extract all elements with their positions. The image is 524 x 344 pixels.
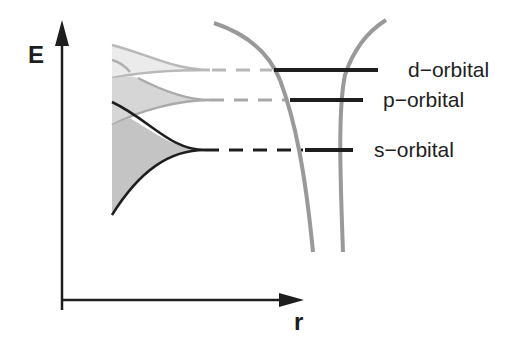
potential-well [214,20,386,252]
x-axis-label: r [294,308,303,335]
x-axis-arrow-icon [279,293,304,307]
well-right-wall [340,20,386,252]
p-orbital-label: p−orbital [383,88,464,111]
s-orbital-label: s−orbital [374,138,454,161]
band-fans [112,45,210,215]
orbital-energy-diagram: d−orbital p−orbital s−orbital E r [0,0,524,344]
d-orbital-label: d−orbital [408,58,489,81]
y-axis-arrow-icon [55,20,69,46]
well-left-wall [214,23,313,252]
axes [55,20,304,310]
y-axis-label: E [28,41,44,68]
